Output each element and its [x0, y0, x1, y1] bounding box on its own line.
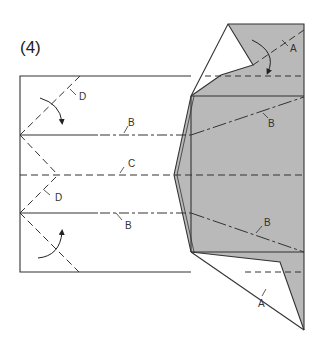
label-B-upper-left: B: [128, 117, 135, 128]
crease-diag-bottom: [20, 213, 79, 272]
label-B-lower-left: B: [125, 220, 132, 231]
crease-diag-upper: [20, 135, 58, 175]
label-D-lower: D: [55, 192, 62, 203]
label-B-upper-right: B: [268, 118, 275, 129]
origami-fold-diagram: A D B B C D B B A: [0, 0, 321, 351]
label-D-upper: D: [79, 91, 86, 102]
left-rect-outline: [20, 76, 191, 272]
fold-arrow-upper-left: [40, 98, 62, 122]
label-B-lower-right: B: [264, 217, 271, 228]
fold-arrow-lower-left: [38, 232, 62, 258]
crease-D-top: [20, 76, 80, 135]
middle-gray: [174, 96, 304, 252]
label-A-top: A: [290, 43, 297, 54]
top-flap-gray: [191, 24, 304, 96]
label-A-bottom: A: [258, 298, 265, 309]
crease-D-lower: [20, 175, 58, 213]
label-C: C: [128, 158, 135, 169]
